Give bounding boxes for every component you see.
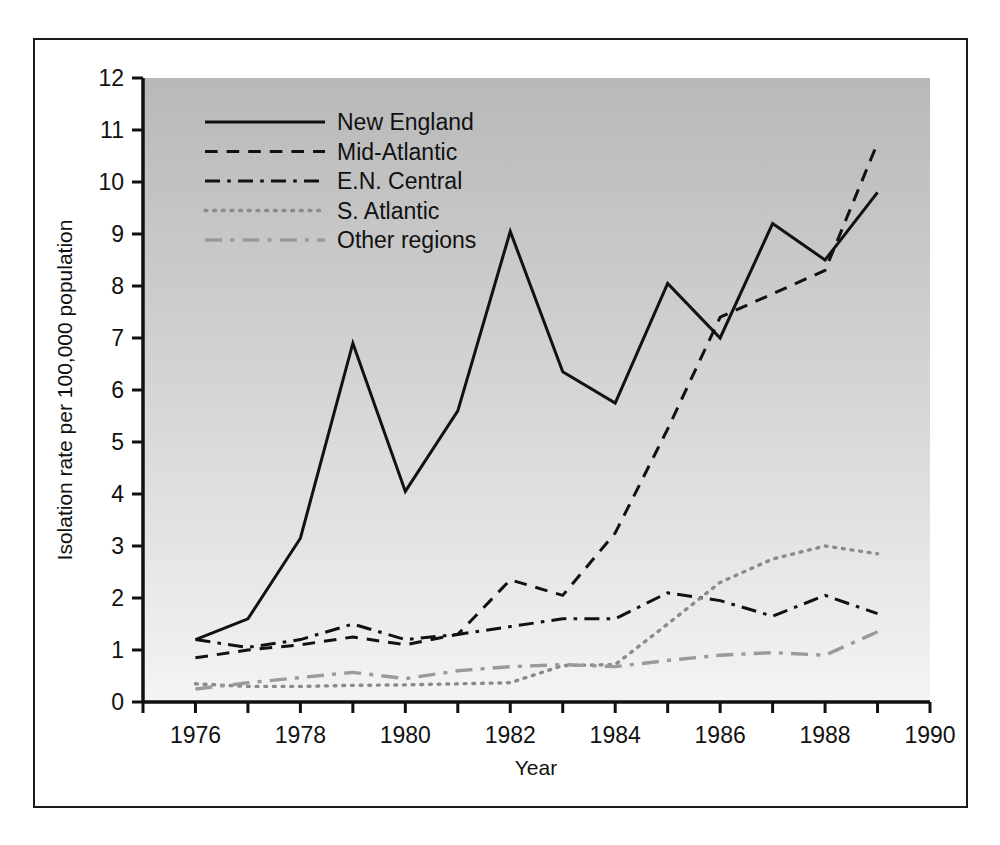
x-tick-label: 1976 (170, 722, 221, 748)
y-tick-label: 4 (111, 481, 124, 507)
y-tick-label: 3 (111, 533, 124, 559)
y-tick-label: 9 (111, 221, 124, 247)
x-tick-label: 1982 (485, 722, 536, 748)
y-tick-label: 12 (98, 65, 124, 91)
x-tick-label: 1988 (799, 722, 850, 748)
y-tick-label: 0 (111, 689, 124, 715)
legend-label-s-atlantic: S. Atlantic (337, 198, 439, 224)
y-tick-label: 2 (111, 585, 124, 611)
y-tick-label: 1 (111, 637, 124, 663)
legend-label-new-england: New England (337, 109, 474, 135)
y-tick-label: 10 (98, 169, 124, 195)
x-axis-title: Year (515, 756, 557, 779)
y-tick-label: 6 (111, 377, 124, 403)
y-tick-label: 8 (111, 273, 124, 299)
line-chart: 0123456789101112197619781980198219841986… (0, 0, 1000, 845)
x-tick-label: 1984 (590, 722, 641, 748)
y-axis-title: Isolation rate per 100,000 population (53, 220, 76, 561)
legend-label-e-n-central: E.N. Central (337, 168, 462, 194)
y-tick-label: 11 (100, 117, 124, 143)
x-tick-label: 1990 (904, 722, 955, 748)
legend-label-mid-atlantic: Mid-Atlantic (337, 139, 457, 165)
x-tick-label: 1986 (695, 722, 746, 748)
x-tick-label: 1978 (275, 722, 326, 748)
x-tick-label: 1980 (380, 722, 431, 748)
y-tick-label: 7 (111, 325, 124, 351)
legend-label-other-regions: Other regions (337, 227, 476, 253)
plot-background (143, 78, 930, 702)
y-tick-label: 5 (111, 429, 124, 455)
